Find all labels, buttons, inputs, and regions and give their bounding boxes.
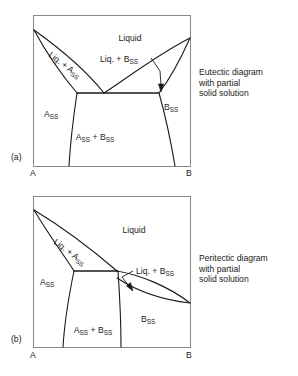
panel-a-ab-sub2: SS xyxy=(106,136,115,143)
panel-a-axis-left-label: A xyxy=(30,168,36,178)
panel-a-caption: Eutectic diagram with partial solid solu… xyxy=(199,67,263,99)
panel-b-labels: Liquid Liq. + ASS Liq. + BSS ASS BSS ASS… xyxy=(40,225,174,336)
panel-b-axis-left-label: A xyxy=(30,350,36,360)
panel-b-liq-bss-sub: SS xyxy=(165,270,174,277)
panel-a-caption-line-2: with partial xyxy=(199,78,263,89)
panel-b-ab-mid: + xyxy=(88,325,98,335)
panel-a-label-bss: BSS xyxy=(164,102,178,113)
panel-a-ab-sub1: SS xyxy=(82,136,91,143)
panel-b-label-liq-plus-bss: Liq. + BSS xyxy=(136,266,174,277)
panel-a-ab-mid: + xyxy=(90,132,100,142)
panel-b-caption-line-2: with partial xyxy=(199,264,268,275)
panel-a-label-ass: ASS xyxy=(44,109,58,120)
panel-a-caption-line-3: solid solution xyxy=(199,88,263,99)
panel-b-label-ass: ASS xyxy=(40,277,54,288)
panel-b-caption-line-1: Peritectic diagram xyxy=(199,253,268,264)
panel-a-liq-bss-sub: SS xyxy=(129,58,138,65)
panel-a-liq-bss-main: Liq. + B xyxy=(100,54,130,64)
panel-a-graphic xyxy=(34,16,191,167)
panel-a-axis-right-label: B xyxy=(186,168,192,178)
panel-b-axis-right-label: B xyxy=(186,350,192,360)
panel-b-ab-sub2: SS xyxy=(104,329,113,336)
panel-a-bss-sub: SS xyxy=(170,106,179,113)
phase-diagram-svg: Liquid Liq. + ASS Liq. + BSS ASS BSS ASS… xyxy=(0,0,298,376)
phase-diagram-figure: Liquid Liq. + ASS Liq. + BSS ASS BSS ASS… xyxy=(0,0,298,376)
panel-a-frame xyxy=(34,16,191,167)
panel-a-caption-line-1: Eutectic diagram xyxy=(199,67,263,78)
panel-b-label-liquid: Liquid xyxy=(123,225,146,235)
panel-b-bss-sub: SS xyxy=(147,318,156,325)
panel-a-identifier: (a) xyxy=(11,152,22,162)
panel-b-ass-sub: SS xyxy=(46,281,55,288)
panel-b-label-ass-plus-bss: ASS + BSS xyxy=(74,325,112,336)
panel-a-solvus-a-side xyxy=(69,93,77,166)
panel-b-caption-line-3: solid solution xyxy=(199,274,268,285)
panel-b-solvus-b-side xyxy=(118,271,121,347)
panel-b-caption: Peritectic diagram with partial solid so… xyxy=(199,253,268,285)
panel-a-label-ass-plus-bss: ASS + BSS xyxy=(76,132,114,143)
panel-b-ab-sub1: SS xyxy=(80,329,89,336)
panel-a-label-liq-plus-bss: Liq. + BSS xyxy=(100,54,138,65)
panel-b-solvus-a-side xyxy=(63,271,74,347)
panel-b-liq-bss-main: Liq. + B xyxy=(136,266,166,276)
panel-a-ass-sub: SS xyxy=(50,113,59,120)
panel-a-label-liquid: Liquid xyxy=(119,33,142,43)
panel-a-liq-bss-leader-line xyxy=(151,58,161,85)
panel-b-label-bss: BSS xyxy=(141,314,155,325)
panel-b-identifier: (b) xyxy=(11,334,22,344)
